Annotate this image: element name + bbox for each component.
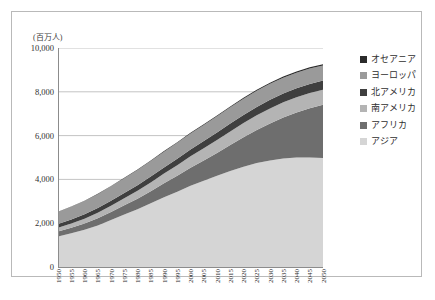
plot-background: [58, 48, 323, 267]
legend-swatch-icon: [360, 56, 367, 63]
x-axis-tick: 2050: [320, 269, 328, 283]
x-axis-tick: 2015: [227, 269, 235, 283]
legend-item-label: オセアニア: [371, 54, 416, 65]
x-axis-tick: 2040: [293, 269, 301, 283]
x-axis-tick: 1950: [55, 269, 63, 283]
legend-item[interactable]: アジア: [360, 136, 435, 147]
x-axis-tick: 2030: [267, 269, 275, 283]
x-axis-tick: 2035: [280, 269, 288, 283]
legend-swatch-icon: [360, 122, 367, 129]
x-axis-tick: 1965: [94, 269, 102, 283]
x-axis-tick-labels: 1950195519601965197019751980198519901995…: [58, 269, 323, 300]
y-axis-tick: 4,000: [35, 174, 54, 184]
x-axis-tick: 2025: [253, 269, 261, 283]
legend-swatch-icon: [360, 89, 367, 96]
x-axis-tick: 1960: [81, 269, 89, 283]
legend-item-label: アフリカ: [371, 120, 407, 131]
x-axis-tick: 1975: [121, 269, 129, 283]
x-axis-tick: 2045: [306, 269, 314, 283]
legend-item-label: 北アメリカ: [371, 87, 416, 98]
stacked-area-svg: [58, 48, 323, 267]
x-axis-tick: 2005: [200, 269, 208, 283]
x-axis-tick: 2010: [214, 269, 222, 283]
x-axis-tick: 1970: [108, 269, 116, 283]
plot-area: [58, 48, 323, 267]
legend-item-label: ヨーロッパ: [371, 70, 416, 81]
y-axis-tick: 2,000: [35, 218, 54, 228]
legend-swatch-icon: [360, 72, 367, 79]
legend-item[interactable]: 北アメリカ: [360, 87, 435, 98]
x-axis-tick: 1980: [134, 269, 142, 283]
legend-item[interactable]: 南アメリカ: [360, 103, 435, 114]
x-axis-tick: 1985: [147, 269, 155, 283]
legend-swatch-icon: [360, 138, 367, 145]
y-axis-tick: 8,000: [35, 87, 54, 97]
x-axis-tick: 2000: [187, 269, 195, 283]
legend-item[interactable]: アフリカ: [360, 120, 435, 131]
legend-item-label: アジア: [371, 136, 398, 147]
x-axis-tick: 1990: [161, 269, 169, 283]
y-axis-tick-labels: 02,0004,0006,0008,00010,000: [12, 48, 54, 267]
y-axis-unit-label: (百万人): [33, 31, 62, 42]
x-axis-tick: 1995: [174, 269, 182, 283]
chart-legend: オセアニアヨーロッパ北アメリカ南アメリカアフリカアジア: [360, 54, 435, 152]
chart-frame: (百万人) 02,0004,0006,0008,00010,000 195019…: [11, 11, 422, 277]
y-axis-line: [58, 48, 59, 267]
y-axis-tick: 10,000: [31, 43, 54, 53]
y-axis-tick: 6,000: [35, 131, 54, 141]
legend-item[interactable]: オセアニア: [360, 54, 435, 65]
legend-item-label: 南アメリカ: [371, 103, 416, 114]
x-axis-line: [58, 267, 323, 268]
legend-swatch-icon: [360, 105, 367, 112]
legend-item[interactable]: ヨーロッパ: [360, 70, 435, 81]
y-axis-tick: 0: [50, 262, 54, 272]
x-axis-tick: 1955: [68, 269, 76, 283]
x-axis-tick: 2020: [240, 269, 248, 283]
